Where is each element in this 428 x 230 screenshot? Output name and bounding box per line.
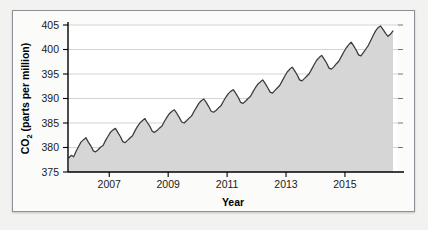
y-tick-label: 405 <box>41 19 59 31</box>
co2-area-chart: 375380385390395400405 200720092011201320… <box>13 11 414 211</box>
svg-text:CO2 (parts per million): CO2 (parts per million) <box>19 43 34 155</box>
x-tick-label: 2013 <box>274 178 298 190</box>
x-tick-label: 2011 <box>216 178 239 190</box>
y-tick-label: 375 <box>41 166 59 178</box>
y-tick-label: 385 <box>41 117 59 129</box>
x-tick-label: 2015 <box>333 178 357 190</box>
y-tick-label: 380 <box>41 141 59 153</box>
y-axis-ticks: 375380385390395400405 <box>41 19 68 178</box>
x-tick-label: 2009 <box>156 178 180 190</box>
y-tick-label: 395 <box>41 68 59 80</box>
y-axis-ticks-right <box>398 25 403 148</box>
x-axis-ticks: 20072009201120132015 <box>98 172 357 190</box>
y-tick-label: 390 <box>41 92 59 104</box>
y-axis-title: CO2 (parts per million) <box>19 43 34 155</box>
y-tick-label: 400 <box>41 43 59 55</box>
x-axis-title: Year <box>222 196 244 208</box>
x-tick-label: 2007 <box>98 178 122 190</box>
figure-panel: 375380385390395400405 200720092011201320… <box>12 10 415 212</box>
